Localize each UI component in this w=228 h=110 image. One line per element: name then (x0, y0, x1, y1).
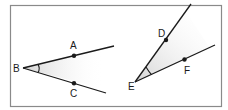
point-f (182, 57, 186, 61)
label-c: C (70, 88, 77, 99)
point-c (72, 81, 76, 85)
point-a (72, 54, 76, 58)
label-b: B (13, 63, 20, 74)
label-f: F (184, 65, 190, 76)
label-d: D (158, 28, 165, 39)
angle-diagram: B A C E D F (0, 0, 228, 110)
label-e: E (128, 81, 135, 92)
label-a: A (70, 40, 77, 51)
